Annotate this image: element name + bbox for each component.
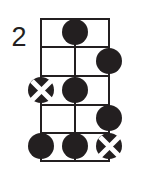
marker-fret5-string1 (28, 133, 54, 159)
chord-diagram: 2 (0, 0, 142, 169)
fret-position-label: 2 (5, 20, 33, 54)
fret-line-3 (40, 104, 110, 106)
fret-line-bottom (40, 160, 110, 162)
fretboard-grid (40, 18, 110, 162)
marker-fret1-string2 (62, 19, 88, 45)
marker-fret3-string1 (28, 77, 54, 103)
marker-fret5-string3 (96, 133, 122, 159)
marker-fret3-string2 (62, 77, 88, 103)
marker-fret5-string2 (62, 133, 88, 159)
marker-fret4-string3 (96, 105, 122, 131)
fret-line-1 (40, 46, 110, 48)
marker-fret2-string3 (96, 48, 122, 74)
